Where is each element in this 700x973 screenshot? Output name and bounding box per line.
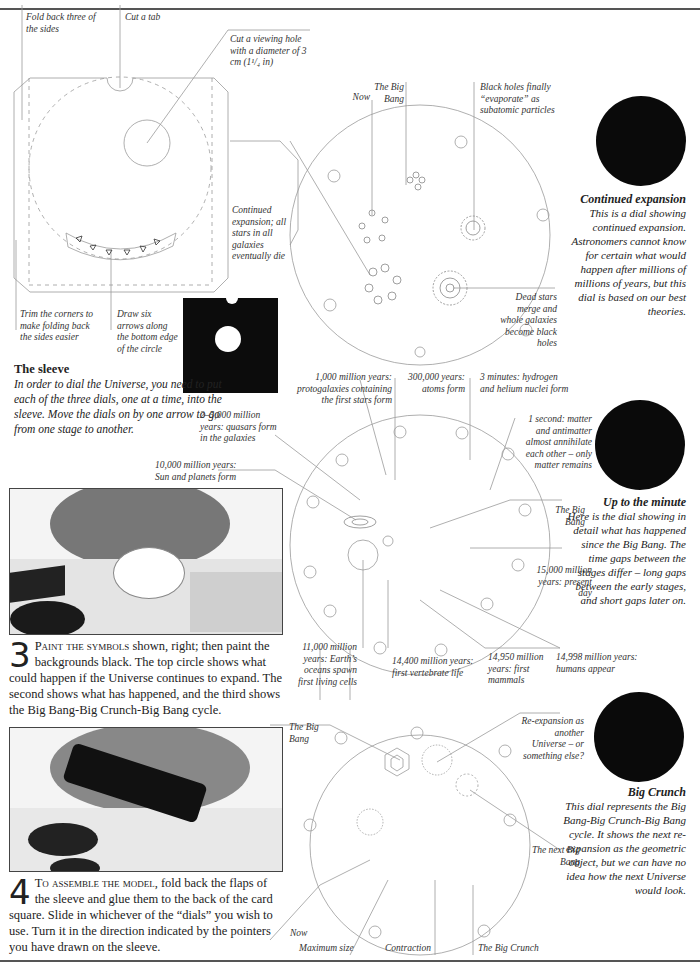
step-number: 4 [9, 877, 31, 907]
d1-side-text: Continued expansion This is a dial showi… [560, 192, 686, 318]
d1-side-body: This is a dial showing continued expansi… [560, 206, 686, 318]
d3-label-contraction: Contraction [385, 943, 445, 955]
d3-side-text: Big Crunch This dial represents the Big … [560, 785, 686, 897]
d2-label-quasars: 2–5,000 million years: quasars form in t… [200, 410, 278, 445]
d2-side-body: Here is the dial showing in detail what … [560, 509, 686, 607]
d2-label-nuclei: 3 minutes: hydrogen and helium nuclei fo… [480, 372, 570, 395]
d3-label-reexpansion: Re-expansion as another Universe – or so… [518, 716, 584, 762]
d2-label-oceans: 11,000 million years: Earth’s oceans spa… [293, 642, 357, 688]
sleeve-body: In order to dial the Universe, you need … [14, 377, 224, 437]
dial-big-crunch-drawing [270, 713, 560, 955]
step-lead: To assemble the model, [35, 876, 158, 890]
d2-side-heading: Up to the minute [560, 495, 686, 509]
d1-label-now: Now [340, 92, 370, 104]
label-viewing-hole: Cut a viewing hole with a diameter of 3 … [230, 34, 310, 69]
painting-photo [9, 488, 283, 635]
step-number: 3 [9, 640, 31, 670]
d2-label-mammals: 14,950 million years: first mammals [488, 652, 550, 687]
d3-label-max-size: Maximum size [299, 943, 369, 955]
assembling-photo [9, 727, 283, 872]
d1-label-black-holes: Black holes finally “evaporate” as subat… [480, 82, 555, 117]
sleeve-section: The sleeve In order to dial the Universe… [14, 362, 224, 437]
dial-up-to-the-minute-thumbnail [595, 400, 685, 490]
d2-label-humans: 14,998 million years: humans appear [556, 652, 666, 675]
d2-label-vertebrate: 14,400 million years: first vertebrate l… [392, 656, 484, 679]
dial-continued-expansion-thumbnail [596, 96, 686, 186]
d2-label-matter: 1 second: matter and antimatter almost a… [512, 414, 592, 472]
d2-label-protogalaxies: 1,000 million years: protogalaxies conta… [286, 372, 392, 407]
d3-label-big-crunch: The Big Crunch [478, 943, 558, 955]
label-fold-back: Fold back three of the sides [26, 12, 106, 35]
label-trim-corners: Trim the corners to make folding back th… [20, 309, 100, 344]
d2-label-sun: 10,000 million years: Sun and planets fo… [155, 460, 245, 483]
dial-big-crunch-thumbnail [594, 692, 684, 782]
d3-side-body: This dial represents the Big Bang-Big Cr… [560, 799, 686, 897]
d2-side-text: Up to the minute Here is the dial showin… [560, 495, 686, 607]
step-3: 3Paint the symbols shown, right; then pa… [9, 638, 284, 718]
step-lead: Paint the symbols [35, 639, 130, 653]
label-cut-tab: Cut a tab [125, 12, 185, 24]
d1-label-dead-stars: Dead stars merge and whole galaxies beco… [495, 292, 557, 350]
d1-label-big-bang: The Big Bang [370, 82, 404, 105]
d1-side-heading: Continued expansion [560, 192, 686, 206]
d3-label-now: Now [290, 928, 330, 940]
d3-label-big-bang: The Big Bang [289, 722, 329, 745]
step-4: 4To assemble the model, fold back the fl… [9, 875, 284, 955]
label-draw-arrows: Draw six arrows along the bottom edge of… [117, 309, 179, 355]
d1-label-stars-die: Continued expansion; all stars in all ga… [232, 205, 292, 263]
d3-side-heading: Big Crunch [560, 785, 686, 799]
sleeve-heading: The sleeve [14, 362, 224, 377]
d2-label-atoms: 300,000 years: atoms form [395, 372, 465, 395]
